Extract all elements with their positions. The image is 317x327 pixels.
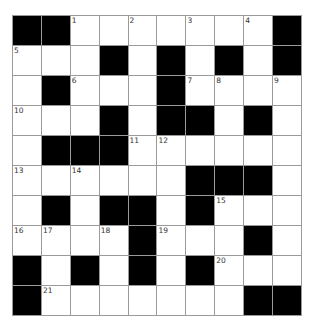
answer-cell[interactable] — [273, 166, 301, 195]
answer-cell[interactable]: 19 — [157, 226, 185, 255]
answer-cell[interactable] — [100, 286, 128, 315]
answer-cell[interactable] — [129, 106, 157, 135]
block-cell — [13, 256, 41, 285]
block-cell — [100, 106, 128, 135]
answer-cell[interactable] — [244, 136, 272, 165]
clue-number: 21 — [43, 286, 53, 295]
block-cell — [129, 226, 157, 255]
answer-cell[interactable]: 18 — [100, 226, 128, 255]
answer-cell[interactable] — [42, 106, 70, 135]
answer-cell[interactable]: 10 — [13, 106, 41, 135]
clue-number: 4 — [245, 16, 250, 25]
answer-cell[interactable]: 15 — [215, 196, 243, 225]
answer-cell[interactable] — [71, 46, 99, 75]
answer-cell[interactable] — [186, 286, 214, 315]
answer-cell[interactable] — [215, 226, 243, 255]
clue-number: 7 — [187, 76, 192, 85]
block-cell — [71, 136, 99, 165]
block-cell — [42, 196, 70, 225]
answer-cell[interactable]: 3 — [186, 16, 214, 45]
answer-cell[interactable]: 7 — [186, 76, 214, 105]
block-cell — [244, 166, 272, 195]
block-cell — [186, 256, 214, 285]
block-cell — [129, 256, 157, 285]
answer-cell[interactable] — [100, 76, 128, 105]
answer-cell[interactable] — [100, 16, 128, 45]
answer-cell[interactable]: 6 — [71, 76, 99, 105]
answer-cell[interactable]: 17 — [42, 226, 70, 255]
clue-number: 18 — [101, 226, 111, 235]
block-cell — [244, 286, 272, 315]
answer-cell[interactable] — [100, 166, 128, 195]
clue-number: 9 — [274, 76, 279, 85]
answer-cell[interactable] — [273, 106, 301, 135]
answer-cell[interactable] — [129, 286, 157, 315]
answer-cell[interactable] — [42, 166, 70, 195]
answer-cell[interactable] — [157, 286, 185, 315]
answer-cell[interactable] — [157, 256, 185, 285]
clue-number: 19 — [158, 226, 168, 235]
answer-cell[interactable] — [71, 106, 99, 135]
answer-cell[interactable]: 5 — [13, 46, 41, 75]
answer-cell[interactable] — [215, 16, 243, 45]
answer-cell[interactable] — [186, 226, 214, 255]
answer-cell[interactable] — [13, 76, 41, 105]
block-cell — [186, 106, 214, 135]
answer-cell[interactable] — [42, 256, 70, 285]
answer-cell[interactable] — [273, 196, 301, 225]
answer-cell[interactable] — [129, 46, 157, 75]
answer-cell[interactable] — [244, 76, 272, 105]
block-cell — [13, 16, 41, 45]
answer-cell[interactable] — [157, 166, 185, 195]
block-cell — [100, 136, 128, 165]
answer-cell[interactable] — [215, 106, 243, 135]
block-cell — [42, 136, 70, 165]
answer-cell[interactable] — [71, 286, 99, 315]
clue-number: 16 — [14, 226, 24, 235]
block-cell — [157, 46, 185, 75]
answer-cell[interactable]: 21 — [42, 286, 70, 315]
answer-cell[interactable] — [157, 16, 185, 45]
answer-cell[interactable] — [13, 196, 41, 225]
answer-cell[interactable] — [157, 196, 185, 225]
block-cell — [186, 196, 214, 225]
block-cell — [215, 166, 243, 195]
clue-number: 10 — [14, 106, 24, 115]
answer-cell[interactable]: 13 — [13, 166, 41, 195]
answer-cell[interactable]: 12 — [157, 136, 185, 165]
answer-cell[interactable] — [244, 256, 272, 285]
clue-number: 13 — [14, 166, 24, 175]
answer-cell[interactable] — [71, 226, 99, 255]
answer-cell[interactable]: 20 — [215, 256, 243, 285]
answer-cell[interactable] — [129, 76, 157, 105]
answer-cell[interactable]: 2 — [129, 16, 157, 45]
block-cell — [273, 16, 301, 45]
block-cell — [71, 256, 99, 285]
answer-cell[interactable]: 1 — [71, 16, 99, 45]
answer-cell[interactable] — [244, 46, 272, 75]
answer-cell[interactable] — [244, 196, 272, 225]
answer-cell[interactable] — [186, 46, 214, 75]
answer-cell[interactable] — [129, 166, 157, 195]
answer-cell[interactable] — [71, 196, 99, 225]
answer-cell[interactable] — [186, 136, 214, 165]
answer-cell[interactable] — [100, 256, 128, 285]
answer-cell[interactable]: 4 — [244, 16, 272, 45]
clue-number: 1 — [72, 16, 77, 25]
answer-cell[interactable] — [273, 226, 301, 255]
answer-cell[interactable]: 8 — [215, 76, 243, 105]
block-cell — [100, 196, 128, 225]
clue-number: 20 — [216, 256, 226, 265]
block-cell — [244, 226, 272, 255]
answer-cell[interactable] — [42, 46, 70, 75]
answer-cell[interactable] — [215, 136, 243, 165]
answer-cell[interactable]: 9 — [273, 76, 301, 105]
answer-cell[interactable] — [273, 136, 301, 165]
block-cell — [273, 46, 301, 75]
answer-cell[interactable]: 14 — [71, 166, 99, 195]
answer-cell[interactable] — [215, 286, 243, 315]
answer-cell[interactable]: 11 — [129, 136, 157, 165]
answer-cell[interactable] — [273, 256, 301, 285]
answer-cell[interactable]: 16 — [13, 226, 41, 255]
answer-cell[interactable] — [13, 136, 41, 165]
